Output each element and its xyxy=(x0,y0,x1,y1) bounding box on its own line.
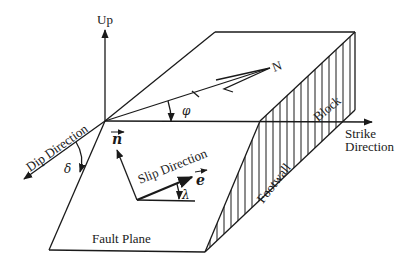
north-label: N xyxy=(270,57,285,75)
phi-symbol: φ xyxy=(182,104,191,118)
strike-direction-arrow xyxy=(105,121,372,122)
phi-arc xyxy=(168,101,171,121)
lambda-arc xyxy=(177,184,179,199)
fault-plane-bottom-edge xyxy=(49,250,205,252)
fault-plane-label: Fault Plane xyxy=(92,231,151,246)
slip-vector-label: e xyxy=(196,172,205,188)
block-outline xyxy=(105,32,355,252)
delta-symbol: δ xyxy=(64,162,71,176)
normal-vector-label: n xyxy=(112,131,122,147)
top-left-edge xyxy=(105,32,215,121)
lambda-symbol: λ xyxy=(181,188,190,202)
footwall-label: Footwall xyxy=(254,160,295,206)
delta-arc xyxy=(76,142,82,172)
normal-vector-arrow xyxy=(117,150,137,200)
up-label: Up xyxy=(97,12,113,27)
fault-plane-diagram: Up Strike Direction N φ Dip Direction δ … xyxy=(0,0,420,268)
strike-label-line2: Direction xyxy=(345,139,395,154)
